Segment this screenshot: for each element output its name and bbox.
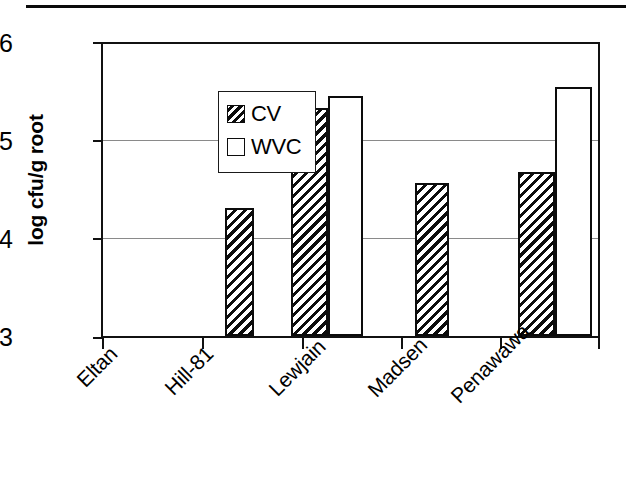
x-label-hill81: Hill-81 <box>160 342 218 400</box>
plot-area: CV WVC <box>101 42 600 338</box>
y-tick-label-6: 6 <box>0 31 13 56</box>
legend-item-wvc: WVC <box>227 136 301 158</box>
x-label-lewjain: Lewjain <box>264 335 330 401</box>
legend-swatch-wvc-icon <box>227 138 245 156</box>
x-tick-mark-5 <box>598 338 600 349</box>
legend-swatch-cv-icon <box>227 105 245 123</box>
bar-penawawa-cv <box>518 172 555 336</box>
bar-madsen-cv <box>415 183 449 336</box>
bar-penawawa-wvc <box>555 87 592 336</box>
bar-lewjain-wvc <box>328 96 363 336</box>
top-horizontal-rule <box>26 5 626 8</box>
y-axis-title: log cfu/g root <box>24 70 48 290</box>
legend-item-cv: CV <box>227 103 281 125</box>
x-label-madsen: Madsen <box>363 333 432 402</box>
y-tick-label-3: 3 <box>0 325 13 350</box>
legend-label-wvc: WVC <box>251 136 301 158</box>
bar-chart-figure: log cfu/g root 6 5 4 3 CV <box>0 0 628 480</box>
legend-label-cv: CV <box>251 103 281 125</box>
bar-hill81-cv <box>225 208 254 336</box>
y-tick-label-5: 5 <box>0 129 13 154</box>
x-label-eltan: Eltan <box>72 342 122 392</box>
legend: CV WVC <box>218 91 316 173</box>
y-tick-label-4: 4 <box>0 227 13 252</box>
